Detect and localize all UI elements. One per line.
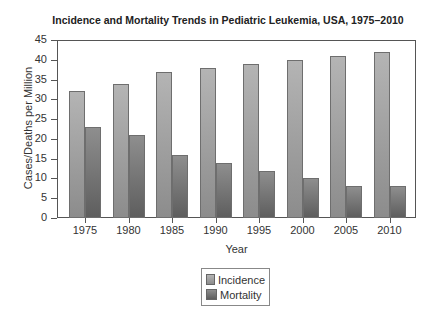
x-tick xyxy=(216,218,217,223)
bar-mortality-2005 xyxy=(346,186,362,218)
x-tick-label: 2000 xyxy=(283,224,323,236)
x-tick xyxy=(259,218,260,223)
legend-swatch-incidence xyxy=(206,274,215,285)
bar-mortality-1995 xyxy=(259,171,275,218)
bar-mortality-2000 xyxy=(303,178,319,218)
y-tick-label: 35 xyxy=(20,73,47,85)
plot-area xyxy=(57,40,416,218)
x-tick-label: 2005 xyxy=(326,224,366,236)
legend-swatch-mortality xyxy=(206,289,217,300)
x-tick-label: 1980 xyxy=(109,224,149,236)
legend-item-incidence: Incidence xyxy=(206,272,265,287)
x-axis-title: Year xyxy=(57,243,416,255)
bar-mortality-2010 xyxy=(390,186,406,218)
legend: Incidence Mortality xyxy=(201,268,270,306)
bar-mortality-1980 xyxy=(129,135,145,218)
y-tick-label: 15 xyxy=(20,152,47,164)
bar-mortality-1985 xyxy=(172,155,188,218)
bar-incidence-2005 xyxy=(330,56,346,218)
bar-incidence-1980 xyxy=(113,84,129,218)
y-tick-label: 45 xyxy=(20,33,47,45)
x-tick-label: 1985 xyxy=(152,224,192,236)
legend-label-incidence: Incidence xyxy=(218,274,265,286)
chart-title: Incidence and Mortality Trends in Pediat… xyxy=(0,14,432,26)
y-tick xyxy=(51,218,57,219)
bar-incidence-2010 xyxy=(374,52,390,218)
y-tick-label: 30 xyxy=(20,92,47,104)
bar-mortality-1975 xyxy=(85,127,101,218)
bar-incidence-1975 xyxy=(69,91,85,218)
x-tick xyxy=(129,218,130,223)
x-tick-label: 1975 xyxy=(65,224,105,236)
bar-incidence-1990 xyxy=(200,68,216,218)
y-tick-label: 10 xyxy=(20,171,47,183)
y-tick-label: 20 xyxy=(20,132,47,144)
x-tick-label: 2010 xyxy=(370,224,410,236)
y-tick-label: 25 xyxy=(20,112,47,124)
x-tick-label: 1990 xyxy=(196,224,236,236)
bar-incidence-1995 xyxy=(243,64,259,218)
legend-item-mortality: Mortality xyxy=(206,287,265,302)
x-tick xyxy=(85,218,86,223)
y-tick-label: 5 xyxy=(20,191,47,203)
y-tick-label: 0 xyxy=(20,211,47,223)
legend-label-mortality: Mortality xyxy=(220,289,262,301)
x-tick xyxy=(346,218,347,223)
bar-mortality-1990 xyxy=(216,163,232,218)
bar-incidence-2000 xyxy=(287,60,303,218)
x-tick xyxy=(303,218,304,223)
bar-incidence-1985 xyxy=(156,72,172,218)
x-tick xyxy=(172,218,173,223)
y-tick-label: 40 xyxy=(20,53,47,65)
x-tick xyxy=(390,218,391,223)
x-tick-label: 1995 xyxy=(239,224,279,236)
